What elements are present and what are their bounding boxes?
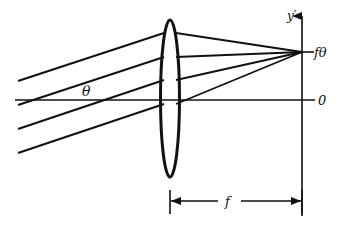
- incoming-rays: [18, 33, 164, 153]
- focal-length-label: f: [224, 194, 232, 209]
- angle-label: θ: [82, 83, 91, 99]
- incoming-ray: [18, 80, 164, 129]
- y-axis-label: y′: [286, 9, 297, 23]
- incoming-ray: [18, 57, 164, 105]
- refracted-rays: [176, 33, 302, 104]
- focal-length-dimension: [170, 190, 302, 214]
- dimension-arrowhead-right: [291, 197, 301, 205]
- dimension-arrowhead-left: [171, 197, 181, 205]
- diagram-canvas: θ y′ fθ 0 f: [0, 0, 342, 229]
- incoming-ray: [18, 33, 164, 81]
- origin-label: 0: [318, 93, 326, 108]
- lens-diagram: θ y′ fθ 0 f: [0, 0, 342, 229]
- refracted-ray: [176, 52, 302, 104]
- image-height-label: fθ: [313, 45, 327, 60]
- incoming-ray: [18, 104, 164, 153]
- refracted-ray: [176, 33, 302, 52]
- lens: [161, 20, 180, 177]
